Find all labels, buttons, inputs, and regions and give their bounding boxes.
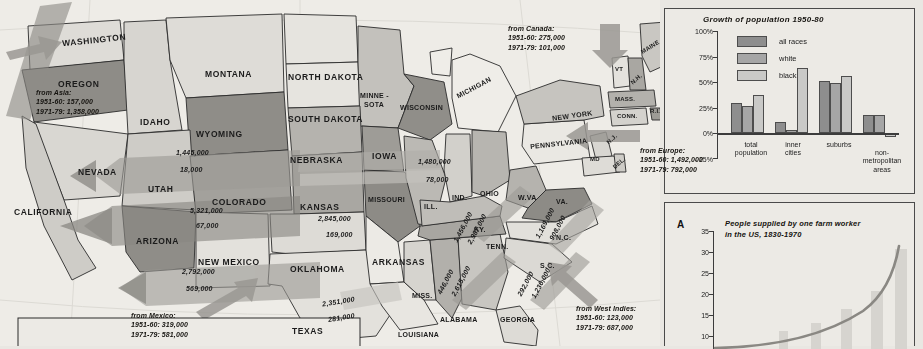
y-tick xyxy=(713,57,717,58)
bar-group-suburbs xyxy=(819,76,852,133)
bar-total-population-black xyxy=(753,95,764,134)
bar-non-metropolitan-black xyxy=(885,135,896,137)
flow-value: 5,321,000 xyxy=(190,207,223,214)
legend-swatch-white xyxy=(737,53,767,64)
bar-suburbs-all-races xyxy=(819,81,830,133)
category-line-2: population xyxy=(735,149,767,156)
immigration-source-title: from West Indies: xyxy=(576,304,636,313)
bar-inner-cities-white xyxy=(786,130,797,133)
y-axis xyxy=(717,31,718,159)
immigration-row-2: 1971-79: 581,000 xyxy=(131,330,188,339)
zero-baseline xyxy=(717,133,899,134)
flow-value: 2,845,000 xyxy=(318,215,351,222)
flow-value: 1,445,000 xyxy=(176,149,209,156)
y-axis-labels: 35 30 25 20 15 10 xyxy=(679,225,709,349)
legend-row-all-races: all races xyxy=(737,35,807,48)
y-tick xyxy=(713,31,717,32)
immigration-label-west-indies: from West Indies: 1951-60: 123,000 1971-… xyxy=(576,304,636,332)
immigration-row-1: 1951-60: 319,000 xyxy=(131,320,188,329)
category-line-2: metropolitan xyxy=(863,157,902,164)
category-line-3: areas xyxy=(873,166,891,173)
category-label-inner-cities: inner cities xyxy=(771,141,815,158)
category-line-1: total xyxy=(744,141,757,148)
category-line-2: cities xyxy=(785,149,801,156)
y-tick-label: 0% xyxy=(703,130,713,137)
immigration-label-europe: from Europe: 1951-60: 1,492,000 1971-79:… xyxy=(640,146,703,174)
flow-value: 169,000 xyxy=(326,231,353,238)
y-axis-labels: 100% 75% 50% 25% 0% - 25% xyxy=(675,31,713,159)
y-tick-label: 50% xyxy=(699,79,713,86)
immigration-row-2: 1971-79: 101,000 xyxy=(508,43,565,52)
bar-suburbs-white xyxy=(830,83,841,133)
farm-plot-area xyxy=(713,225,905,349)
bar-group-total-population xyxy=(731,95,764,134)
y-tick xyxy=(713,82,717,83)
y-tick-label: 15 xyxy=(701,312,709,319)
legend-swatch-all-races xyxy=(737,36,767,47)
category-line-1: non- xyxy=(875,149,889,156)
bar-total-population-all-races xyxy=(731,103,742,134)
bar-non-metropolitan-all-races xyxy=(863,115,874,133)
legend-row-black: black xyxy=(737,69,807,82)
y-tick xyxy=(713,158,717,159)
legend-label-all-races: all races xyxy=(779,37,807,46)
immigration-row-2: 1971-79: 1,358,000 xyxy=(36,107,99,116)
flow-value: 2,792,000 xyxy=(182,268,215,275)
legend-row-white: white xyxy=(737,52,807,65)
immigration-source-title: from Europe: xyxy=(640,146,703,155)
category-label-non-metropolitan: non- metropolitan areas xyxy=(851,149,913,174)
flow-value: 1,480,000 xyxy=(418,158,451,165)
immigration-label-asia: from Asia: 1951-60: 157,000 1971-79: 1,3… xyxy=(36,88,99,116)
immigration-label-mexico: from Mexico: 1951-60: 319,000 1971-79: 5… xyxy=(131,311,188,339)
bar-total-population-white xyxy=(742,106,753,134)
y-tick-label: 75% xyxy=(699,53,713,60)
legend-swatch-black xyxy=(737,70,767,81)
immigration-row-1: 1951-60: 157,000 xyxy=(36,97,99,106)
category-line-1: inner xyxy=(785,141,801,148)
immigration-row-2: 1971-79: 687,000 xyxy=(576,323,636,332)
immigration-label-canada: from Canada: 1951-60: 275,000 1971-79: 1… xyxy=(508,24,565,52)
legend-label-white: white xyxy=(779,54,797,63)
flow-value: 569,000 xyxy=(186,285,213,292)
y-tick-label: 30 xyxy=(701,249,709,256)
us-migration-map: WASHINGTON OREGON IDAHO MONTANA NORTH DA… xyxy=(0,0,660,346)
y-tick xyxy=(713,108,717,109)
immigration-source-title: from Mexico: xyxy=(131,311,188,320)
immigration-source-title: from Asia: xyxy=(36,88,99,97)
bar-inner-cities-all-races xyxy=(775,122,786,133)
immigration-row-1: 1951-60: 275,000 xyxy=(508,33,565,42)
y-tick-label: 100% xyxy=(695,28,713,35)
bar-non-metropolitan-white xyxy=(874,115,885,133)
y-tick-label: 35 xyxy=(701,228,709,235)
bar-group-non-metropolitan xyxy=(863,115,885,133)
chart-title: Growth of population 1950-80 xyxy=(703,15,824,24)
y-tick-label: 25 xyxy=(701,270,709,277)
farm-worker-chart: A People supplied by one farm worker in … xyxy=(664,202,915,346)
immigration-row-1: 1951-60: 123,000 xyxy=(576,313,636,322)
immigration-row-2: 1971-79: 792,000 xyxy=(640,165,703,174)
flow-value: 67,000 xyxy=(196,222,219,229)
farm-curve-line xyxy=(713,225,905,349)
y-tick-label: 20 xyxy=(701,291,709,298)
chart-legend: all races white black xyxy=(737,35,807,86)
bar-suburbs-black xyxy=(841,76,852,133)
category-line-1: suburbs xyxy=(827,141,852,148)
flow-value: 78,000 xyxy=(426,176,449,183)
immigration-row-1: 1951-60: 1,492,000 xyxy=(640,155,703,164)
immigration-source-title: from Canada: xyxy=(508,24,565,33)
legend-label-black: black xyxy=(779,71,797,80)
y-tick-label: 25% xyxy=(699,104,713,111)
flow-value: 18,000 xyxy=(180,166,203,173)
y-tick-label: 10 xyxy=(701,333,709,340)
